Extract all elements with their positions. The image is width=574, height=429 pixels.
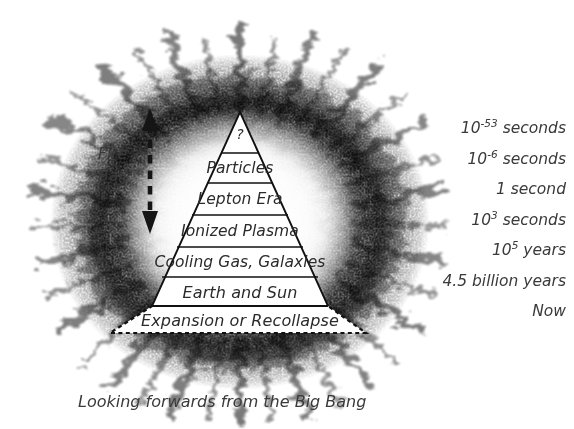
pyramid-layer-label-4: Cooling Gas, Galaxies bbox=[155, 253, 326, 271]
time-unit-2: second bbox=[511, 180, 566, 198]
time-unit-4: years bbox=[523, 241, 566, 259]
time-base-4: 10 bbox=[492, 241, 512, 259]
time-exponent-4: 5 bbox=[512, 239, 519, 251]
time-label-5: 4.5 billion years bbox=[366, 266, 566, 297]
time-base-5: 4.5 billion bbox=[442, 272, 518, 290]
pyramid-layer-label-5: Earth and Sun bbox=[183, 283, 298, 302]
time-label-0: 10-53 seconds bbox=[366, 113, 566, 144]
time-base-0: 10 bbox=[461, 119, 481, 137]
pyramid-layer-label-3: Ionized Plasma bbox=[181, 222, 299, 240]
fire-ball-label: Fire Ball bbox=[98, 143, 127, 187]
time-unit-0: seconds bbox=[503, 119, 566, 137]
time-exponent-0: -53 bbox=[481, 117, 498, 129]
diagram-caption: Looking forwards from the Big Bang bbox=[78, 392, 366, 411]
time-base-6: Now bbox=[532, 302, 566, 320]
time-exponent-3: 3 bbox=[491, 208, 498, 220]
pyramid-layer-label-0: ? bbox=[236, 126, 244, 142]
time-unit-5: years bbox=[523, 272, 566, 290]
time-exponent-1: -6 bbox=[487, 147, 497, 159]
time-label-3: 103 seconds bbox=[366, 205, 566, 236]
diagram-canvas: ? Particles Lepton Era Ionized Plasma Co… bbox=[0, 0, 574, 429]
time-unit-1: seconds bbox=[503, 150, 566, 168]
fire-ball-line-1: Fire bbox=[98, 143, 127, 165]
pyramid-layer-label-1: Particles bbox=[207, 159, 274, 177]
time-label-1: 10-6 seconds bbox=[366, 144, 566, 175]
time-scale-column: 10-53 seconds 10-6 seconds 1 second 103 … bbox=[366, 113, 566, 327]
fire-ball-line-2: Ball bbox=[98, 165, 127, 187]
time-base-1: 10 bbox=[467, 150, 487, 168]
time-base-3: 10 bbox=[471, 211, 491, 229]
time-label-6: Now bbox=[366, 296, 566, 327]
time-label-2: 1 second bbox=[366, 174, 566, 205]
pyramid-layer-label-2: Lepton Era bbox=[198, 190, 283, 208]
time-label-4: 105 years bbox=[366, 235, 566, 266]
time-base-2: 1 bbox=[496, 180, 506, 198]
time-unit-3: seconds bbox=[503, 211, 566, 229]
pyramid-layer-label-6: Expansion or Recollapse bbox=[141, 311, 339, 330]
double-headed-dashed-arrow bbox=[142, 108, 158, 234]
